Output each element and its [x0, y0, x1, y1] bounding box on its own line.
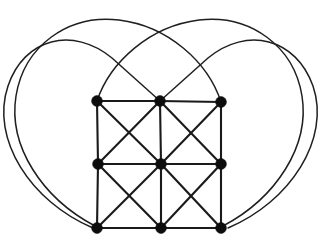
vertical-edge [97, 101, 98, 164]
horizontal-edge [160, 101, 221, 102]
figure-background [0, 0, 325, 244]
vertex-middle-left [93, 159, 104, 170]
vertex-top-left [92, 96, 103, 107]
vertical-edge [160, 101, 161, 164]
graph-canvas [0, 0, 325, 244]
vertical-edge [97, 164, 98, 228]
vertex-bottom-left [92, 223, 103, 234]
vertex-bottom-right [216, 223, 227, 234]
vertex-top-right [216, 97, 227, 108]
vertex-top-middle [155, 96, 166, 107]
vertex-middle-right [216, 159, 227, 170]
vertex-center [156, 159, 167, 170]
vertex-bottom-middle [156, 223, 167, 234]
graph-figure [0, 0, 325, 244]
